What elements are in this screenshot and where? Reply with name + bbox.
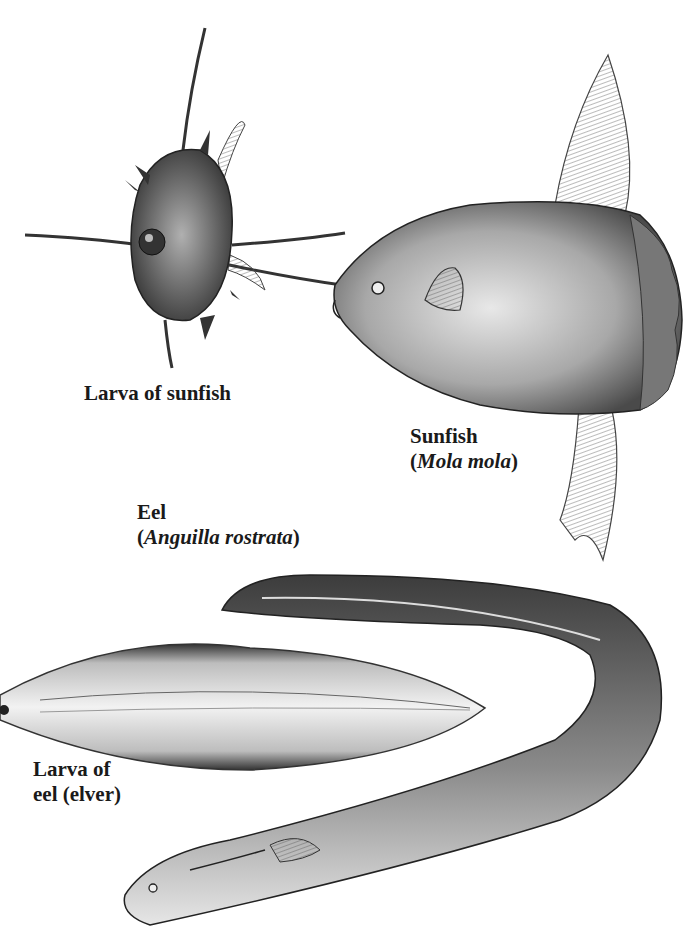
larva-of-eel-label: Larva of eel (elver): [33, 757, 121, 807]
sunfish-binomial: Mola mola: [417, 449, 511, 473]
eel-common-name: Eel: [137, 500, 300, 525]
eel-larva-drawing: [0, 644, 485, 770]
eel-label: Eel (Anguilla rostrata): [137, 500, 300, 550]
paren-close: ): [511, 449, 518, 473]
sunfish-larva-drawing: [25, 28, 345, 368]
larva-of-sunfish-label: Larva of sunfish: [84, 381, 231, 406]
paren-open: (: [137, 525, 144, 549]
eel-scientific-name: (Anguilla rostrata): [137, 525, 300, 550]
eel-binomial: Anguilla rostrata: [144, 525, 293, 549]
sunfish-common-name: Sunfish: [410, 424, 518, 449]
elver-label-line1: Larva of: [33, 757, 121, 782]
paren-close: ): [293, 525, 300, 549]
sunfish-scientific-name: (Mola mola): [410, 449, 518, 474]
sunfish-drawing: [333, 55, 682, 560]
paren-open: (: [410, 449, 417, 473]
sunfish-label: Sunfish (Mola mola): [410, 424, 518, 474]
elver-label-line2: eel (elver): [33, 782, 121, 807]
